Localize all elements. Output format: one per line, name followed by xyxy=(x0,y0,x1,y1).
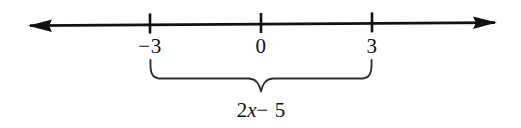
axis-line xyxy=(30,23,495,26)
brace-expression-label: 2x− 5 xyxy=(237,100,285,121)
expression-constant: 5 xyxy=(275,98,286,122)
tick-label-three: 3 xyxy=(367,36,378,57)
underbrace xyxy=(150,60,371,92)
expression-variable: x xyxy=(247,98,256,122)
expression-coefficient: 2 xyxy=(237,98,248,122)
tick-label-minus-3: −3 xyxy=(138,36,161,57)
right-arrowhead-icon xyxy=(473,16,497,29)
left-arrowhead-icon xyxy=(28,19,52,32)
expression-operator: − xyxy=(257,98,270,122)
number-line-figure: −3 0 3 2x− 5 xyxy=(0,0,521,128)
tick-label-zero: 0 xyxy=(256,36,267,57)
